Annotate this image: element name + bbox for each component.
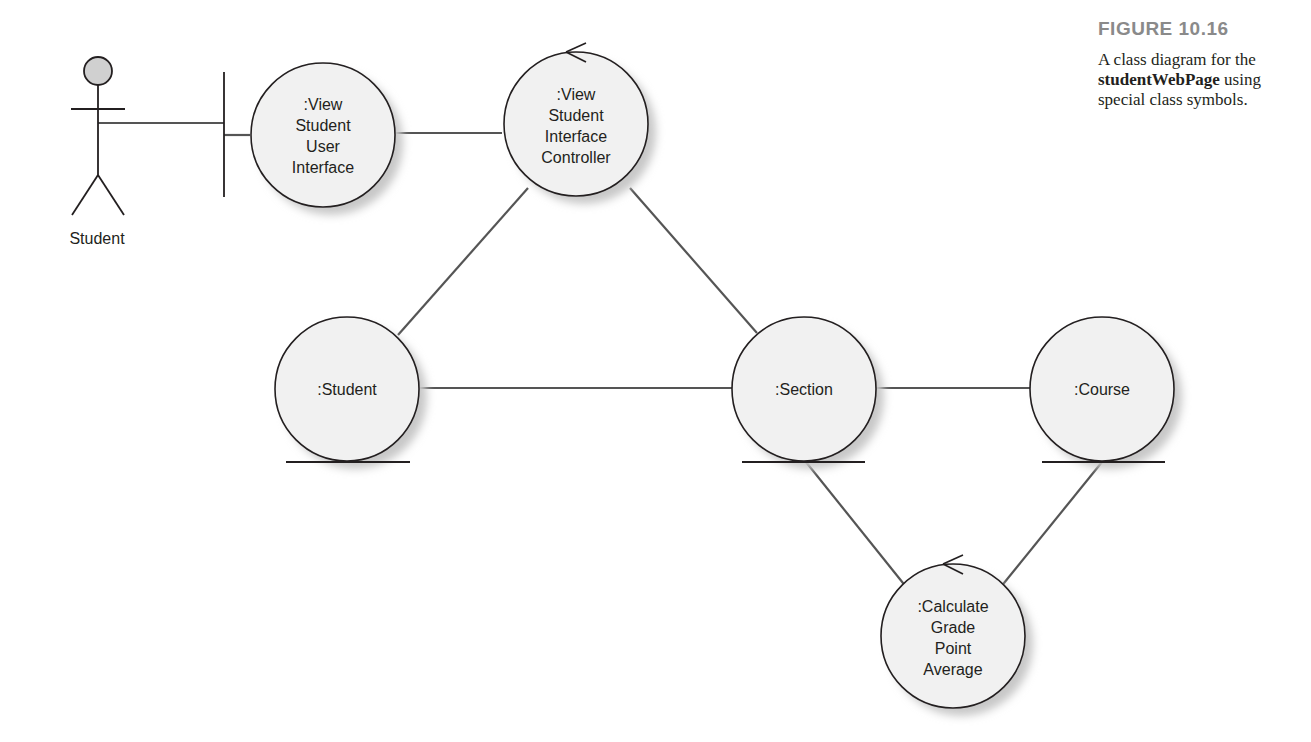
actor-label: Student — [69, 230, 125, 247]
caption-prefix: A class diagram for the — [1098, 50, 1256, 69]
connector-section-gpa — [806, 462, 907, 588]
node-label-line: :View — [304, 96, 343, 113]
node-label-line: Point — [935, 640, 972, 657]
node-label-line: User — [306, 138, 340, 155]
node-label-line: Student — [295, 117, 351, 134]
node-label-line: Grade — [931, 619, 976, 636]
class-diagram: Student :View Student User Interface :Vi… — [0, 0, 1311, 742]
actor-student — [71, 57, 125, 215]
node-label-line: :Student — [317, 381, 377, 398]
node-view-student-interface-controller[interactable]: :View Student Interface Controller — [504, 43, 656, 204]
actor-head — [84, 57, 112, 85]
node-label-line: :Course — [1074, 381, 1130, 398]
node-section[interactable]: :Section — [732, 317, 884, 469]
node-label-line: Interface — [545, 128, 607, 145]
node-label-line: :View — [557, 86, 596, 103]
connector-controller-student — [398, 188, 528, 335]
node-course[interactable]: :Course — [1030, 317, 1182, 469]
caption-bold-term: studentWebPage — [1098, 70, 1220, 89]
node-student[interactable]: :Student — [275, 317, 427, 469]
node-label-line: :Calculate — [917, 598, 988, 615]
node-calculate-grade-point-average[interactable]: :Calculate Grade Point Average — [881, 555, 1033, 716]
node-label-line: :Section — [775, 381, 833, 398]
node-label-line: Student — [548, 107, 604, 124]
figure-caption-text: A class diagram for the studentWebPage u… — [1098, 50, 1308, 110]
connector-controller-section — [630, 188, 757, 333]
figure-number: FIGURE 10.16 — [1098, 18, 1308, 40]
node-label-line: Average — [923, 661, 982, 678]
node-label-line: Controller — [541, 149, 611, 166]
node-view-student-user-interface[interactable]: :View Student User Interface — [251, 63, 403, 215]
connector-course-gpa — [1000, 462, 1102, 588]
node-label-line: Interface — [292, 159, 354, 176]
figure-caption: FIGURE 10.16 A class diagram for the stu… — [1098, 18, 1308, 110]
